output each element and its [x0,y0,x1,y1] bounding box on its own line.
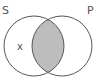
x-mark: x [17,41,23,52]
set-label-p: P [87,4,94,17]
set-label-s: S [2,4,9,17]
venn-diagram: S P x [0,0,98,84]
